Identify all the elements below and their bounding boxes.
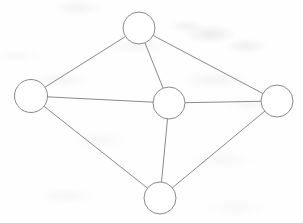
graph-edge[interactable] [145, 42, 163, 88]
graph-edge[interactable] [185, 101, 262, 102]
graph-node[interactable] [261, 85, 293, 117]
graph-edge[interactable] [161, 118, 167, 182]
edge-layer [44, 35, 266, 188]
graph-edge[interactable] [45, 36, 126, 87]
graph-edge[interactable] [47, 97, 154, 102]
graph-edge[interactable] [153, 35, 264, 94]
graph-node[interactable] [153, 87, 185, 119]
graph-node[interactable] [15, 80, 48, 113]
diagram-canvas [0, 0, 303, 223]
graph-edge[interactable] [172, 111, 265, 188]
node-layer [15, 12, 294, 214]
graph-svg [0, 0, 303, 223]
graph-node[interactable] [123, 12, 155, 44]
graph-edge[interactable] [44, 106, 148, 188]
graph-node[interactable] [144, 182, 176, 214]
